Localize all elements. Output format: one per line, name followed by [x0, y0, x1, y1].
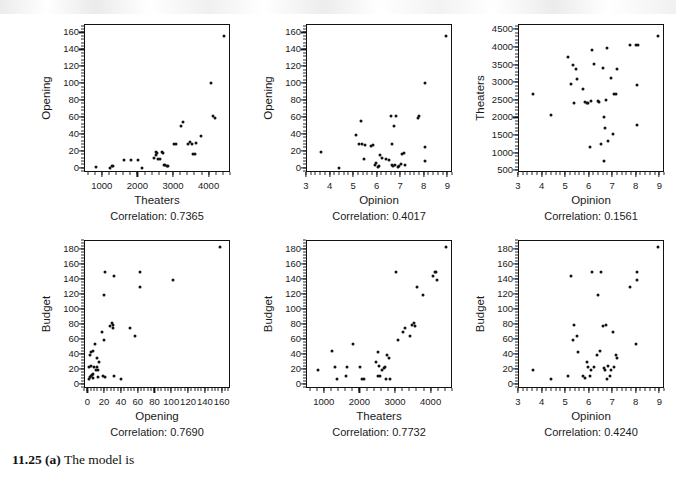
data-point [371, 144, 374, 147]
data-point [112, 275, 115, 278]
y-tick-minor [81, 154, 84, 155]
x-tick-minor [110, 388, 111, 391]
data-point [572, 338, 575, 341]
y-tick-minor [81, 130, 84, 131]
y-tick-major [79, 133, 84, 134]
y-tick-minor [81, 127, 84, 128]
data-point [362, 377, 365, 380]
x-tick-minor [123, 172, 124, 175]
y-tick-minor [303, 317, 306, 318]
y-tick-minor [515, 75, 518, 76]
y-tick-minor [515, 163, 518, 164]
x-tick-minor [631, 172, 632, 175]
x-tick-label: 8 [633, 181, 638, 191]
y-tick-minor [81, 89, 84, 90]
x-tick-minor [330, 388, 331, 391]
y-tick-minor [515, 380, 518, 381]
data-point [190, 143, 193, 146]
x-tick-minor [218, 388, 219, 391]
y-tick-major [301, 167, 306, 168]
x-tick-major [323, 388, 324, 393]
y-tick-label: 80 [290, 95, 301, 105]
x-tick-minor [380, 388, 381, 391]
x-tick-label: 160 [214, 397, 230, 407]
x-tick-minor [116, 172, 117, 175]
x-axis-title: Theaters [84, 194, 230, 206]
data-point [635, 271, 638, 274]
y-tick-label: 180 [63, 244, 79, 254]
y-tick-minor [81, 79, 84, 80]
y-tick-label: 160 [63, 28, 79, 38]
data-point [345, 374, 348, 377]
x-tick-minor [527, 388, 528, 391]
y-tick-label: 40 [68, 349, 79, 359]
data-point [402, 151, 405, 154]
y-tick-minor [515, 326, 518, 327]
x-tick-minor [607, 388, 608, 391]
plot-area [84, 240, 230, 388]
y-tick-label: 120 [285, 62, 301, 72]
y-tick-major [513, 293, 518, 294]
y-tick-minor [81, 350, 84, 351]
y-tick-minor [515, 311, 518, 312]
y-tick-major [301, 66, 306, 67]
y-tick-minor [515, 347, 518, 348]
y-tick-label: 3500 [492, 60, 513, 70]
x-tick-minor [602, 172, 603, 175]
y-tick-major [301, 338, 306, 339]
x-tick-minor [208, 388, 209, 391]
x-tick-major [353, 172, 354, 177]
y-tick-minor [515, 377, 518, 378]
data-point [140, 166, 143, 169]
y-tick-minor [81, 275, 84, 276]
x-tick-minor [416, 388, 417, 391]
y-axis: 020406080100120140160Opening [18, 24, 84, 172]
panel-budget-vs-opening: 020406080100120140160180Budget0204060801… [18, 224, 240, 440]
data-point [360, 119, 363, 122]
x-tick-minor [187, 172, 188, 175]
y-tick-minor [515, 257, 518, 258]
y-tick-minor [81, 290, 84, 291]
y-tick-minor [515, 284, 518, 285]
x-tick-minor [191, 388, 192, 391]
x-tick-major [612, 388, 613, 393]
x-tick-minor [579, 388, 580, 391]
data-point [423, 145, 426, 148]
y-tick-minor [515, 25, 518, 26]
x-tick-minor [419, 172, 420, 175]
y-tick-minor [81, 254, 84, 255]
data-point [337, 166, 340, 169]
y-tick-minor [515, 245, 518, 246]
y-tick-label: 120 [63, 62, 79, 72]
x-tick-minor [649, 388, 650, 391]
x-tick-label: 9 [657, 181, 662, 191]
x-tick-label: 100 [163, 397, 179, 407]
x-tick-minor [147, 388, 148, 391]
y-axis: 020406080100120140160Opening [240, 24, 306, 172]
x-tick-minor [532, 172, 533, 175]
y-axis-title: Budget [40, 259, 52, 369]
x-tick-minor [316, 388, 317, 391]
y-axis: 020406080100120140160180Budget [240, 240, 306, 388]
x-tick-minor [345, 388, 346, 391]
y-tick-minor [303, 341, 306, 342]
x-tick-minor [164, 388, 165, 391]
data-point [330, 349, 333, 352]
x-tick-major [87, 388, 88, 393]
data-point [596, 293, 599, 296]
y-tick-minor [515, 71, 518, 72]
y-tick-major [79, 83, 84, 84]
data-point [656, 35, 659, 38]
y-tick-minor [515, 350, 518, 351]
y-tick-major [513, 170, 518, 171]
data-point [174, 143, 177, 146]
x-tick-minor [181, 388, 182, 391]
plot-area [518, 24, 664, 172]
y-tick-label: 100 [497, 304, 513, 314]
y-tick-major [79, 293, 84, 294]
y-tick-major [79, 248, 84, 249]
x-tick-minor [640, 172, 641, 175]
data-point [103, 338, 106, 341]
y-tick-minor [515, 106, 518, 107]
data-point [95, 357, 98, 360]
